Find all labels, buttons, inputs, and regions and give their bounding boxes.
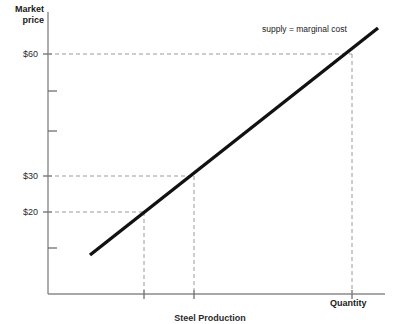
x-axis-title: Quantity	[330, 298, 400, 309]
vertical-guide-lines	[144, 54, 352, 294]
y-tick-label-30: $30	[0, 172, 38, 181]
chart-caption: Steel Production	[130, 313, 290, 323]
supply-curve-annotation: supply = marginal cost	[262, 24, 347, 34]
chart-plot-area	[0, 0, 403, 324]
supply-curve-line	[90, 28, 378, 255]
y-axis-title: Market price	[0, 4, 44, 26]
y-tick-label-20: $20	[0, 208, 38, 217]
supply-curve-chart: Market price Quantity $60 $30 $20 supply…	[0, 0, 403, 324]
y-axis-ticks	[43, 54, 57, 248]
y-tick-label-60: $60	[0, 50, 38, 59]
horizontal-guide-lines	[48, 54, 352, 212]
